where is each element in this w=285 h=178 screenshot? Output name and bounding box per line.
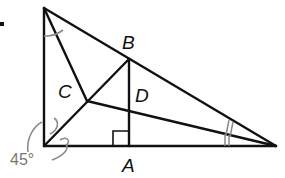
hypotenuse	[44, 8, 276, 146]
angle-arrow-upper	[28, 122, 42, 152]
angle-label-45: 45°	[10, 151, 34, 168]
bullet-dot	[0, 22, 4, 26]
angle-tick	[226, 120, 229, 135]
label-C: C	[58, 81, 72, 102]
label-D: D	[135, 85, 149, 106]
right-angle-mark	[113, 131, 129, 146]
geometry-diagram: B C D A 45°	[0, 0, 285, 178]
label-B: B	[122, 32, 135, 53]
corner-bisector	[44, 59, 129, 146]
right-bisector	[87, 101, 276, 146]
label-A: A	[121, 155, 135, 176]
